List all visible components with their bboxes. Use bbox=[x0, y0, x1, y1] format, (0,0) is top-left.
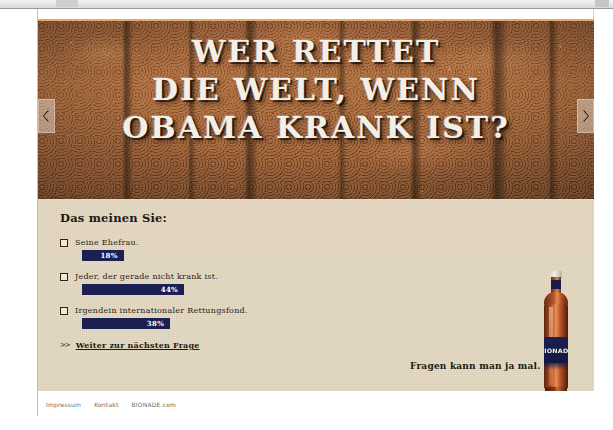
titlebar-tab-stub bbox=[56, 0, 78, 7]
poll-option-row[interactable]: Irgendein internationaler Rettungsfond. bbox=[60, 306, 390, 315]
poll-bar-fill: 18% bbox=[82, 250, 124, 261]
poll-option-label: Seine Ehefrau. bbox=[75, 238, 139, 247]
headline-line-3: OBAMA KRANK IST? bbox=[38, 109, 594, 147]
browser-window: WER RETTET DIE WELT, WENN OBAMA KRANK IS… bbox=[0, 0, 613, 430]
poll-heading: Das meinen Sie: bbox=[60, 211, 390, 225]
bottle-label-lower-band bbox=[544, 363, 568, 370]
footer-link-impressum[interactable]: Impressum bbox=[46, 401, 81, 408]
carousel-prev-button[interactable] bbox=[38, 99, 55, 133]
poll-bar-fill: 38% bbox=[82, 318, 170, 329]
window-right-margin bbox=[593, 9, 613, 430]
footer-link-kontakt[interactable]: Kontakt bbox=[94, 401, 118, 408]
next-question-label: Weiter zur nächsten Frage bbox=[76, 340, 200, 350]
headline-line-2: DIE WELT, WENN bbox=[38, 71, 594, 109]
double-chevron-right-icon: >> bbox=[60, 341, 70, 349]
poll-bar-value: 18% bbox=[100, 251, 123, 260]
poll-bar-track: 18% bbox=[82, 250, 314, 261]
poll-panel: Das meinen Sie: Seine Ehefrau. 18% Jeder… bbox=[60, 211, 390, 350]
hero-headline: WER RETTET DIE WELT, WENN OBAMA KRANK IS… bbox=[38, 33, 594, 147]
bottle-label: BIONADE bbox=[544, 337, 568, 363]
window-left-margin bbox=[0, 9, 38, 430]
brand-tagline: Fragen kann man ja mal. bbox=[410, 361, 541, 371]
poll-option: Jeder, der gerade nicht krank ist. 44% bbox=[60, 272, 390, 295]
page-top-rule bbox=[38, 19, 594, 21]
poll-bar-track: 44% bbox=[82, 284, 314, 295]
poll-bar-value: 38% bbox=[147, 319, 170, 328]
poll-option: Irgendein internationaler Rettungsfond. … bbox=[60, 306, 390, 329]
bottle-neck-label bbox=[551, 280, 561, 289]
window-controls-stub[interactable] bbox=[595, 0, 609, 7]
poll-option-row[interactable]: Seine Ehefrau. bbox=[60, 238, 390, 247]
bottle-label-text: BIONADE bbox=[544, 347, 568, 354]
poll-option: Seine Ehefrau. 18% bbox=[60, 238, 390, 261]
poll-bar-value: 44% bbox=[161, 285, 184, 294]
chevron-left-icon bbox=[43, 110, 50, 122]
poll-option-label: Irgendein internationaler Rettungsfond. bbox=[75, 306, 248, 315]
headline-line-1: WER RETTET bbox=[38, 33, 594, 71]
page-canvas: WER RETTET DIE WELT, WENN OBAMA KRANK IS… bbox=[38, 19, 594, 417]
poll-checkbox[interactable] bbox=[60, 273, 68, 281]
chevron-right-icon bbox=[582, 110, 589, 122]
bottle: BIONADE bbox=[540, 271, 572, 393]
poll-bar-track: 38% bbox=[82, 318, 314, 329]
poll-option-label: Jeder, der gerade nicht krank ist. bbox=[75, 272, 218, 281]
poll-option-row[interactable]: Jeder, der gerade nicht krank ist. bbox=[60, 272, 390, 281]
poll-checkbox[interactable] bbox=[60, 307, 68, 315]
site-footer: Impressum Kontakt BIONADE.com bbox=[38, 391, 594, 417]
footer-link-bionade-com[interactable]: BIONADE.com bbox=[132, 401, 177, 408]
poll-checkbox[interactable] bbox=[60, 239, 68, 247]
next-question-link[interactable]: >> Weiter zur nächsten Frage bbox=[60, 340, 390, 350]
poll-bar-fill: 44% bbox=[82, 284, 184, 295]
window-bottom-margin bbox=[0, 416, 613, 430]
window-titlebar bbox=[0, 0, 613, 9]
carousel-next-button[interactable] bbox=[577, 99, 594, 133]
